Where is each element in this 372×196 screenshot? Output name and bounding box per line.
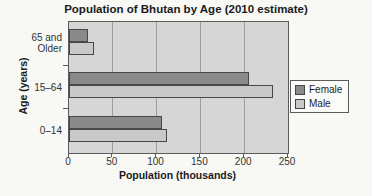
legend-label-female: Female	[309, 84, 342, 95]
legend-item-female: Female	[295, 84, 342, 95]
bar-male-0	[69, 42, 94, 55]
female-swatch-icon	[295, 85, 305, 95]
y-category-label-1: 15–64	[16, 81, 62, 92]
bar-female-1	[69, 72, 249, 85]
bar-male-1	[69, 85, 273, 98]
x-tick-label-100: 100	[147, 156, 164, 167]
bar-female-2	[69, 116, 162, 129]
x-tick-label-250: 250	[279, 156, 296, 167]
plot-area	[68, 21, 289, 154]
x-tick-label-200: 200	[235, 156, 252, 167]
legend: Female Male	[290, 80, 349, 113]
legend-label-male: Male	[309, 98, 331, 109]
y-category-label-2: 0–14	[16, 125, 62, 136]
x-tick-label-0: 0	[65, 156, 71, 167]
male-swatch-icon	[295, 99, 305, 109]
x-axis-title: Population (thousands)	[68, 169, 287, 181]
chart-title: Population of Bhutan by Age (2010 estima…	[0, 3, 372, 15]
bar-chart: Population of Bhutan by Age (2010 estima…	[0, 0, 372, 196]
y-category-label-0: 65 and Older	[16, 32, 62, 54]
x-tick-label-50: 50	[106, 156, 117, 167]
x-tick-label-150: 150	[191, 156, 208, 167]
legend-item-male: Male	[295, 98, 342, 109]
y-tick-2	[63, 108, 68, 109]
bar-female-0	[69, 29, 88, 42]
bar-male-2	[69, 129, 167, 142]
y-tick-1	[63, 65, 68, 66]
